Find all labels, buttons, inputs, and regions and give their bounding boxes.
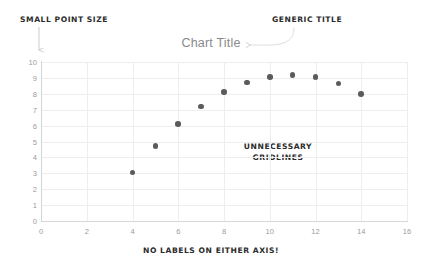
y-axis-tick-label: 9 — [15, 73, 37, 82]
y-axis-tick-label: 5 — [15, 137, 37, 146]
data-point — [313, 74, 319, 80]
y-axis-tick-label: 7 — [15, 105, 37, 114]
gridline-vertical — [224, 62, 225, 221]
x-axis-tick-label: 2 — [72, 227, 102, 236]
x-axis-tick-label: 16 — [392, 227, 422, 236]
annotation-no-labels-on-either-axis: NO LABELS ON EITHER AXIS! — [0, 245, 422, 256]
data-point — [221, 89, 227, 95]
data-point — [153, 143, 159, 149]
y-axis-tick-labels: 012345678910 — [13, 62, 37, 221]
annotation-generic-title: GENERIC TITLE — [272, 14, 342, 25]
y-axis-line — [41, 61, 42, 222]
gridline-vertical — [178, 62, 179, 221]
annotation-small-point-size: SMALL POINT SIZE — [20, 14, 108, 25]
plot-area — [41, 62, 407, 221]
data-point — [244, 80, 250, 86]
data-point — [336, 81, 342, 87]
gridline-vertical — [316, 62, 317, 221]
x-axis-tick-labels: 0246810121416 — [41, 227, 407, 241]
data-point — [175, 121, 181, 127]
x-axis-tick-label: 14 — [346, 227, 376, 236]
x-axis-tick-label: 6 — [163, 227, 193, 236]
y-axis-tick-label: 2 — [15, 185, 37, 194]
x-axis-line — [41, 221, 408, 222]
y-axis-tick-label: 3 — [15, 169, 37, 178]
gridline-vertical — [133, 62, 134, 221]
x-axis-tick-label: 10 — [255, 227, 285, 236]
gridline-vertical — [87, 62, 88, 221]
y-axis-tick-label: 10 — [15, 58, 37, 67]
gridline-vertical — [407, 62, 408, 221]
x-axis-tick-label: 0 — [26, 227, 56, 236]
data-point — [198, 104, 204, 110]
chart-title: Chart Title — [0, 36, 422, 50]
data-point — [130, 170, 136, 176]
x-axis-tick-label: 12 — [301, 227, 331, 236]
data-point — [290, 72, 296, 78]
x-axis-tick-label: 8 — [209, 227, 239, 236]
y-axis-tick-label: 8 — [15, 89, 37, 98]
y-axis-tick-label: 6 — [15, 121, 37, 130]
data-point — [358, 91, 364, 97]
y-axis-tick-label: 1 — [15, 201, 37, 210]
chart-canvas: SMALL POINT SIZE GENERIC TITLE UNNECESSA… — [0, 0, 422, 267]
y-axis-tick-label: 4 — [15, 153, 37, 162]
gridline-vertical — [270, 62, 271, 221]
x-axis-tick-label: 4 — [118, 227, 148, 236]
gridline-vertical — [361, 62, 362, 221]
data-point — [267, 74, 273, 80]
y-axis-tick-label: 0 — [15, 217, 37, 226]
